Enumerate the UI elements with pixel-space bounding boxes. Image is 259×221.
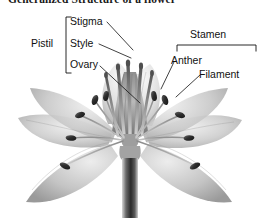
figure-title: Generalized Structure of a flower bbox=[8, 0, 176, 5]
label-style: Style bbox=[70, 38, 93, 49]
label-pistil: Pistil bbox=[31, 38, 53, 49]
receptacle-and-stem bbox=[119, 146, 140, 218]
flower-anatomy-figure: Generalized Structure of a flower bbox=[0, 0, 259, 221]
label-anther: Anther bbox=[171, 55, 202, 66]
label-stamen: Stamen bbox=[190, 29, 226, 40]
label-filament: Filament bbox=[199, 69, 239, 80]
label-ovary: Ovary bbox=[70, 59, 98, 70]
label-stigma: Stigma bbox=[70, 16, 103, 27]
